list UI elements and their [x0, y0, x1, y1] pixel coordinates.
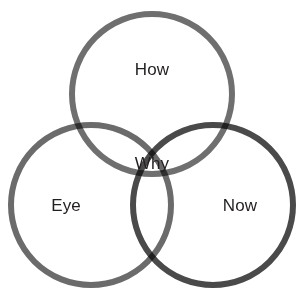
label-eye: Eye — [51, 197, 81, 214]
venn-diagram: How Why Eye Now — [0, 0, 305, 297]
label-why-center: Why — [135, 155, 169, 172]
label-how: How — [135, 61, 169, 78]
label-now: Now — [223, 197, 257, 214]
venn-circles-graphic — [0, 0, 305, 297]
